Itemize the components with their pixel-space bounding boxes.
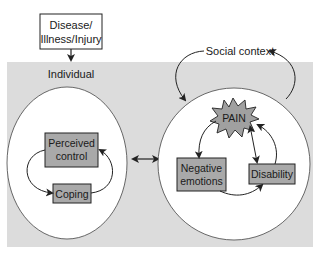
coping-label: Coping	[55, 188, 88, 200]
pain-model-diagram: Disease/ Illness/Injury Individual Perce…	[0, 0, 320, 253]
disability-label: Disability	[251, 168, 294, 180]
disease-label-line2: Illness/Injury	[40, 33, 102, 45]
pain-label: PAIN	[222, 112, 246, 124]
perceived-control-line2: control	[56, 150, 88, 162]
negative-emotions-line1: Negative	[181, 162, 223, 174]
individual-label: Individual	[48, 68, 94, 80]
disease-label-line1: Disease/	[50, 19, 94, 31]
negative-emotions-line2: emotions	[180, 175, 223, 187]
perceived-control-line1: Perceived	[48, 137, 95, 149]
social-context-label: Social context	[206, 45, 274, 57]
